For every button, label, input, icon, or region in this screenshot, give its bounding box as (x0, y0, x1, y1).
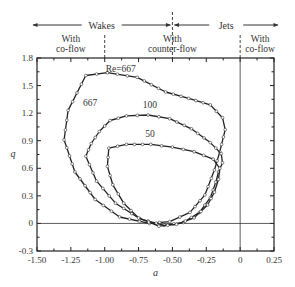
y-tick-label: 0.3 (22, 191, 34, 201)
curves (63, 71, 227, 227)
x-tick-label: -1.00 (95, 255, 114, 265)
label-re-667: Re=667 (106, 64, 136, 74)
x-axis-label: a (153, 267, 158, 278)
x-tick-label: -1.50 (28, 255, 47, 265)
region-header: WakesJetsWithco-flowWithcounter-flowWith… (33, 12, 278, 58)
y-tick-label: 1.8 (22, 53, 34, 63)
label-100: 100 (143, 100, 158, 110)
y-axis-label: q (11, 148, 16, 159)
sub-region-label: With (251, 34, 270, 44)
y-tick-label: 0.6 (22, 163, 34, 173)
plot-frame: -1.50-1.25-1.00-0.75-0.50-0.2500.251.81.… (11, 53, 283, 278)
x-tick-label: -0.50 (163, 255, 182, 265)
x-tick-label: -0.25 (197, 255, 216, 265)
sub-region-label: co-flow (56, 44, 86, 54)
x-tick-label: 0 (238, 255, 243, 265)
y-tick-label: 0 (29, 218, 34, 228)
sub-region-label: co-flow (245, 44, 275, 54)
region-label-jets: Jets (219, 20, 234, 31)
x-tick-label: 0.25 (266, 255, 282, 265)
sub-region-label: With (62, 34, 81, 44)
x-tick-label: -0.75 (129, 255, 148, 265)
x-tick-label: -1.25 (61, 255, 80, 265)
label-667-inner: 667 (83, 98, 98, 108)
y-tick-label: -0.3 (19, 246, 34, 256)
y-tick-label: 0.9 (22, 136, 34, 146)
chart: WakesJetsWithco-flowWithcounter-flowWith… (0, 0, 295, 287)
y-tick-label: 1.2 (22, 108, 33, 118)
label-50: 50 (145, 129, 155, 139)
region-label-wakes: Wakes (89, 20, 116, 31)
y-tick-label: 1.5 (22, 81, 34, 91)
